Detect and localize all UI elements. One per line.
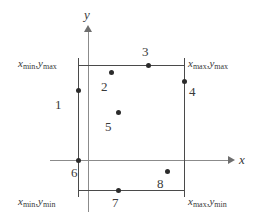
corner-label-bottom-right: xmax,ymin — [188, 196, 227, 207]
data-point-label: 2 — [101, 80, 108, 93]
x-axis-arrowhead — [228, 156, 235, 164]
data-point-dot — [109, 70, 114, 75]
corner-label-bottom-left: xmin,ymin — [18, 196, 55, 207]
data-point-label: 1 — [55, 98, 62, 111]
y-axis-label: y — [84, 8, 90, 21]
data-point-label: 7 — [112, 196, 119, 209]
data-point-dot — [76, 88, 81, 93]
y-axis-arrowhead — [84, 25, 92, 32]
corner-x-sub: min — [23, 62, 35, 71]
data-point-label: 4 — [189, 85, 196, 98]
corner-y-sub: max — [43, 62, 57, 71]
rect-left-edge — [78, 58, 79, 197]
corner-label-top-right: xmax,ymax — [188, 58, 228, 69]
clipping-region-diagram: x y xmin,ymax xmax,ymax xmin,ymin xmax,y… — [0, 0, 254, 221]
corner-y-sub: min — [214, 200, 226, 209]
data-point-dot — [146, 63, 151, 68]
data-point-label: 8 — [157, 177, 164, 190]
data-point-label: 5 — [105, 120, 112, 133]
corner-x-sub: min — [23, 200, 35, 209]
rect-top-edge — [78, 65, 184, 66]
data-point-label: 6 — [71, 166, 78, 179]
corner-x-sub: max — [193, 200, 207, 209]
corner-y-sub: min — [43, 200, 55, 209]
rect-bottom-edge — [78, 190, 184, 191]
data-point-label: 3 — [142, 45, 149, 58]
y-axis-line — [88, 30, 89, 212]
corner-y-sub: max — [214, 62, 228, 71]
corner-label-top-left: xmin,ymax — [18, 58, 57, 69]
data-point-dot — [76, 158, 81, 163]
corner-x-sub: max — [193, 62, 207, 71]
data-point-dot — [116, 110, 121, 115]
data-point-dot — [165, 169, 170, 174]
x-axis-label: x — [239, 153, 245, 166]
data-point-dot — [182, 79, 187, 84]
data-point-dot — [116, 188, 121, 193]
